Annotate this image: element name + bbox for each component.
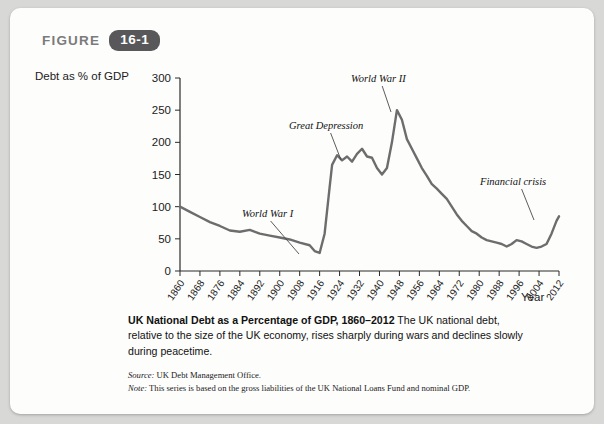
y-tick-label: 300 (152, 72, 171, 84)
x-tick-label: 1868 (185, 277, 207, 302)
x-tick-label: 1892 (245, 277, 267, 302)
annotation-label: Financial crisis (479, 176, 546, 187)
x-tick-label: 2004 (524, 277, 546, 302)
notes-block: Source: UK Debt Management Office. Note:… (128, 369, 548, 395)
x-tick-label: 1948 (384, 277, 406, 302)
x-tick-label: 1876 (205, 277, 227, 302)
y-tick-label: 150 (152, 169, 171, 181)
y-tick-label: 50 (158, 233, 171, 245)
figure-card: FIGURE 16-1 Debt as % of GDP Year 050100… (10, 8, 594, 414)
x-tick-label: 1972 (444, 277, 466, 302)
x-axis-ticks: 1860186818761884189219001908191619241932… (165, 271, 566, 302)
x-tick-label: 2012 (544, 277, 566, 302)
x-tick-label: 1916 (304, 277, 326, 302)
note-line: Note: This series is based on the gross … (128, 382, 548, 395)
note-label: Note: (128, 383, 147, 393)
y-axis-ticks: 050100150200250300 (152, 72, 180, 277)
x-tick-label: 1956 (404, 277, 426, 302)
caption-title: UK National Debt as a Percentage of GDP,… (128, 314, 395, 326)
annotation-leader-line (522, 189, 534, 220)
note-text: This series is based on the gross liabil… (149, 383, 470, 393)
x-tick-label: 1940 (364, 277, 386, 302)
y-tick-label: 0 (165, 265, 171, 277)
debt-line-chart: 050100150200250300 186018681876188418921… (10, 8, 594, 308)
x-tick-label: 1908 (285, 277, 307, 302)
annotation-label: World War I (242, 208, 294, 219)
source-label: Source: (128, 370, 154, 380)
annotation-label: Great Depression (289, 120, 363, 131)
x-tick-label: 1924 (324, 277, 346, 302)
annotation-leader-line (382, 86, 391, 112)
x-tick-label: 1996 (504, 277, 526, 302)
x-tick-label: 1860 (165, 277, 187, 302)
y-tick-label: 200 (152, 136, 171, 148)
x-tick-label: 1980 (464, 277, 486, 302)
source-text: UK Debt Management Office. (157, 370, 261, 380)
chart-area: Debt as % of GDP Year 050100150200250300… (10, 8, 594, 308)
chart-annotations: World War IGreat DepressionWorld War IIF… (242, 73, 546, 254)
annotation-label: World War II (351, 73, 406, 84)
x-tick-label: 1964 (424, 277, 446, 302)
source-line: Source: UK Debt Management Office. (128, 369, 548, 382)
x-tick-label: 1988 (484, 277, 506, 302)
y-tick-label: 250 (152, 104, 171, 116)
x-tick-label: 1884 (225, 277, 247, 302)
y-tick-label: 100 (152, 201, 171, 213)
x-tick-label: 1932 (344, 277, 366, 302)
x-tick-label: 1900 (265, 277, 287, 302)
caption: UK National Debt as a Percentage of GDP,… (128, 313, 528, 359)
